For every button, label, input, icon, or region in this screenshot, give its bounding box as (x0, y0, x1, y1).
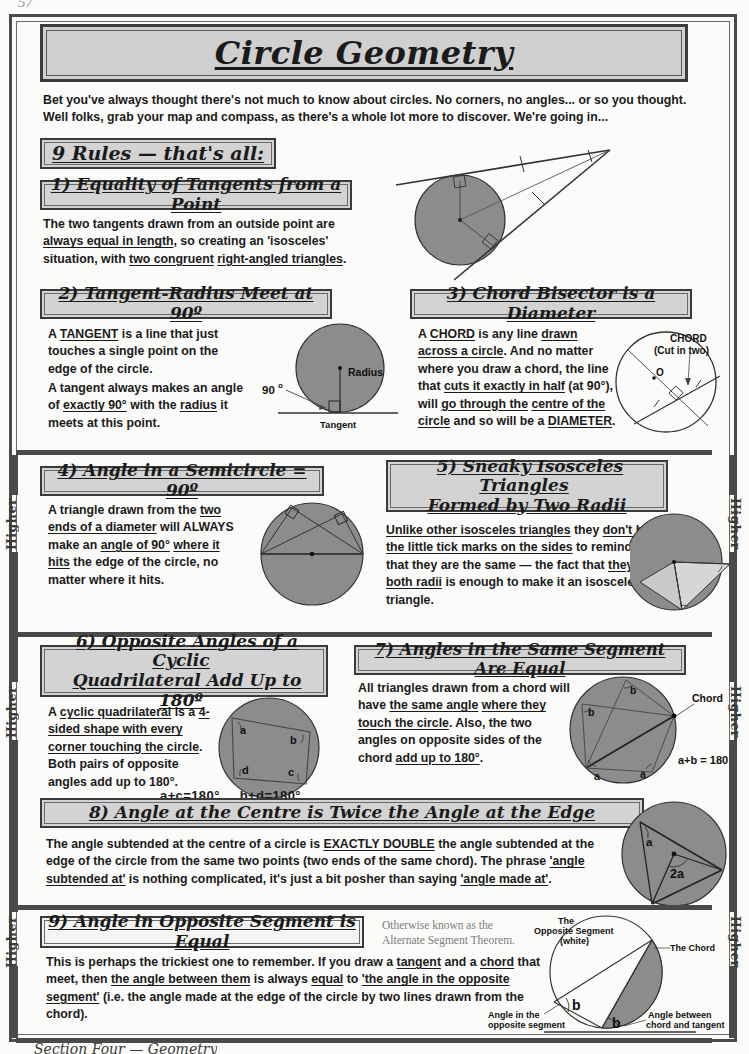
rule-2-heading-label: 2) Tangent-Radius Meet at 90º (42, 284, 330, 323)
angle-at-centre-diagram: a 2a (618, 800, 730, 912)
rule-9-heading: 9) Angle in Opposite Segment is Equal (40, 916, 364, 948)
higher-tab-left-2: Higher (4, 686, 19, 738)
page-footer: Section Four — Geometry (34, 1041, 217, 1054)
label-formula-7: a+b = 180 (678, 754, 728, 766)
rule-2-heading: 2) Tangent-Radius Meet at 90º (40, 289, 332, 319)
label-radius: Radius (348, 366, 383, 378)
rule-7-heading: 7) Angles in the Same Segment Are Equal (354, 645, 686, 675)
label-chord: CHORD (670, 333, 707, 344)
label-the-chord: The Chord (670, 943, 715, 953)
rule-8-heading: 8) Angle at the Centre is Twice the Angl… (40, 798, 644, 828)
rule-1-heading-label: 1) Equality of Tangents from a Point (42, 175, 350, 214)
rule-1-heading: 1) Equality of Tangents from a Point (40, 180, 352, 210)
rule-2-body-part-2: A tangent always makes an angle of exact… (48, 380, 248, 432)
label-angle-a: a (240, 724, 247, 736)
label-angle-c: c (288, 766, 294, 778)
rule-6-heading: 6) Opposite Angles of a Cyclic Quadrilat… (40, 645, 328, 697)
higher-tab-left-3: Higher (4, 916, 19, 968)
label-angle-b-tangent: b (612, 1015, 621, 1031)
label-angle-b-1: b (588, 706, 594, 718)
higher-tab-right-3: Higher (728, 916, 743, 968)
higher-bar-right-4 (729, 966, 735, 1038)
label-angle-d: d (242, 764, 249, 776)
rule-8-body: The angle subtended at the centre of a c… (46, 836, 622, 888)
page-title-box: Circle Geometry (40, 24, 688, 82)
same-segment-angles-diagram: a a b b Chord a+b = 180 o (566, 672, 736, 794)
label-centre-o: O (656, 367, 664, 378)
isosceles-from-radii-diagram (630, 510, 730, 618)
tangent-radius-diagram: 90 o Radius Tangent (248, 318, 404, 438)
section-divider-3 (16, 905, 712, 910)
label-white: (white) (560, 936, 589, 946)
svg-text:o: o (278, 381, 283, 390)
higher-bar-left-3 (12, 740, 18, 912)
label-chord-and-tangent: chord and tangent (646, 1020, 725, 1030)
rule-4-body: A triangle drawn from the two ends of a … (48, 502, 244, 589)
rule-5-heading-label: 5) Sneaky Isosceles Triangles Formed by … (388, 457, 666, 516)
rule-6-heading-line-2: Quadrilateral Add Up to 180º (67, 670, 302, 710)
higher-bar-left-4 (12, 966, 18, 1038)
higher-bar-right-2 (729, 552, 735, 682)
alternate-segment-diagram: b b The Opposite Segment (white) The Cho… (484, 914, 728, 1040)
label-angle-b-2: b (630, 684, 636, 696)
label-cut-in-two: (Cut in two) (654, 345, 709, 356)
rules-count-heading-label: 9 Rules — that's all: (46, 143, 270, 165)
label-angle-between: Angle between (648, 1010, 712, 1020)
rule-5-heading-line-2: Formed by Two Radii (422, 495, 633, 515)
rule-6-body: A cyclic quadrilateral is a 4-sided shap… (48, 704, 218, 791)
rule-7-heading-label: 7) Angles in the Same Segment Are Equal (356, 641, 684, 679)
higher-bar-left-1 (12, 455, 18, 495)
rule-4-heading: 4) Angle in a Semicircle = 90º (40, 466, 324, 496)
higher-bar-right-3 (729, 740, 735, 912)
rule-4-heading-label: 4) Angle in a Semicircle = 90º (42, 461, 322, 500)
higher-tab-right-2: Higher (728, 686, 743, 738)
higher-tab-right-1: Higher (728, 498, 743, 550)
rule-3-heading-label: 3) Chord Bisector is a Diameter (412, 284, 690, 323)
angle-in-semicircle-diagram (254, 496, 372, 618)
rule-9-heading-label: 9) Angle in Opposite Segment is Equal (42, 912, 362, 951)
label-angle-a-centre: a (646, 836, 653, 848)
label-opposite-segment-2: opposite segment (488, 1020, 565, 1030)
higher-tab-left-1: Higher (4, 498, 19, 550)
rule-1-body: The two tangents drawn from an outside p… (43, 216, 359, 268)
higher-bar-right-1 (729, 455, 735, 495)
label-the: The (558, 916, 574, 926)
rule-7-body: All triangles drawn from a chord will ha… (358, 680, 574, 767)
chord-bisector-diagram: O CHORD (Cut in two) (612, 322, 724, 442)
label-90-degrees: 90 (262, 384, 275, 396)
tangents-from-point-diagram (392, 132, 744, 284)
higher-bar-left-2 (12, 552, 18, 682)
rule-8-heading-label: 8) Angle at the Centre is Twice the Angl… (83, 803, 601, 823)
page-title: Circle Geometry (215, 34, 514, 72)
rule-9-body: This is perhaps the trickiest one to rem… (46, 954, 546, 1024)
label-angle-b-opposite: b (572, 997, 581, 1013)
label-opposite-segment: Opposite Segment (534, 926, 614, 936)
rule-6-heading-label: 6) Opposite Angles of a Cyclic Quadrilat… (42, 632, 326, 710)
rule-5-heading: 5) Sneaky Isosceles Triangles Formed by … (386, 460, 668, 512)
label-angle-in-the: Angle in the (488, 1010, 540, 1020)
corner-page-mark: 57 (18, 0, 33, 11)
label-chord-7: Chord (692, 692, 723, 704)
label-angle-a-1: a (594, 770, 600, 782)
intro-paragraph: Bet you've always thought there's not mu… (43, 92, 691, 126)
cyclic-quadrilateral-diagram: a b c d (214, 696, 324, 800)
rule-5-heading-line-1: 5) Sneaky Isosceles Triangles (431, 456, 623, 496)
rule-2-body-part-1: A TANGENT is a line that just touches a … (48, 326, 244, 378)
label-angle-a-2: a (640, 768, 646, 780)
label-angle-b: b (290, 734, 297, 746)
rule-6-heading-line-1: 6) Opposite Angles of a Cyclic (70, 631, 298, 671)
label-tangent: Tangent (320, 419, 357, 430)
rule-3-body: A CHORD is any line drawn across a circl… (418, 326, 616, 430)
label-angle-2a: 2a (670, 867, 685, 881)
section-divider-1 (16, 450, 712, 455)
rule-3-heading: 3) Chord Bisector is a Diameter (410, 289, 692, 319)
rules-count-heading: 9 Rules — that's all: (40, 138, 276, 169)
